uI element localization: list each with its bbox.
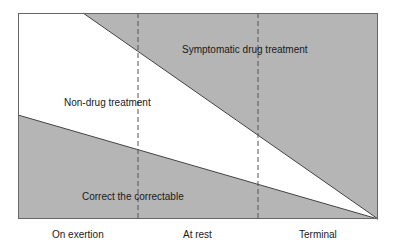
- x-label-at-rest: At rest: [183, 230, 212, 240]
- label-correct-the-correctable: Correct the correctable: [82, 192, 184, 202]
- label-symptomatic-drug-treatment: Symptomatic drug treatment: [182, 45, 308, 55]
- label-non-drug-treatment: Non-drug treatment: [64, 98, 151, 108]
- x-label-terminal: Terminal: [299, 230, 337, 240]
- x-label-on-exertion: On exertion: [52, 230, 104, 240]
- treatment-diagram: [0, 0, 399, 246]
